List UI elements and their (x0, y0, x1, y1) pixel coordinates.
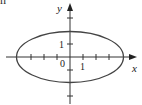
x-axis (6, 54, 137, 60)
x-axis-arrow-icon (129, 54, 137, 60)
ellipse-graph: y x 1 0 1 (0, 0, 142, 105)
y-axis (67, 3, 73, 104)
x-axis-label: x (131, 62, 137, 74)
y-axis-arrow-icon (67, 3, 73, 11)
y-axis-label: y (56, 2, 62, 14)
y-tick-label-1: 1 (59, 39, 64, 50)
x-tick-label-1: 1 (80, 61, 85, 72)
origin-label: 0 (60, 58, 65, 69)
